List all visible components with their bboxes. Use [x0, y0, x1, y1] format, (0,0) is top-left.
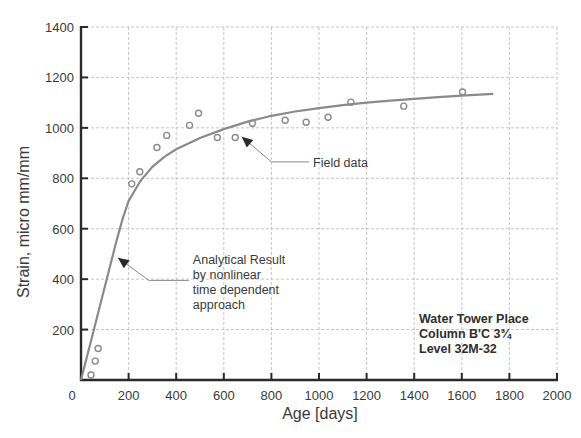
- x-tick-label: 0: [68, 388, 75, 403]
- x-tick-label: 1600: [447, 388, 476, 403]
- info-box: Water Tower Place Column B'C 3¾ Level 32…: [419, 312, 529, 356]
- annotation-field-line: Field data: [313, 156, 368, 170]
- field-data-point: [196, 110, 202, 116]
- y-tick-label: 200: [52, 323, 74, 338]
- y-axis-title: Strain, micro mm/mm: [15, 146, 32, 298]
- y-tick-label: 1400: [45, 20, 74, 35]
- arrowhead-icon: [242, 137, 254, 148]
- field-data-point: [325, 114, 331, 120]
- field-data-point: [187, 122, 193, 128]
- x-tick-label: 1200: [352, 388, 381, 403]
- arrowhead-icon: [118, 258, 130, 269]
- field-data-points: [88, 89, 466, 378]
- field-data-point: [88, 372, 94, 378]
- x-tick-label: 400: [165, 388, 187, 403]
- x-tick-label: 2000: [543, 388, 572, 403]
- annotation-analytical-line: by nonlinear: [193, 268, 261, 282]
- x-tick-label: 200: [118, 388, 140, 403]
- y-tick-label: 800: [52, 171, 74, 186]
- field-data-point: [95, 345, 101, 351]
- field-data-point: [282, 117, 288, 123]
- y-tick-label: 600: [52, 222, 74, 237]
- annotation-analytical-line: Analytical Result: [193, 253, 286, 267]
- annotation-analytical-line: approach: [193, 298, 245, 312]
- x-tick-label: 1000: [305, 388, 334, 403]
- field-data-point: [232, 134, 238, 140]
- field-data-point: [303, 119, 309, 125]
- x-tick-label: 600: [213, 388, 235, 403]
- annotation-analytical-line: time dependent: [193, 283, 280, 297]
- y-tick-label: 1000: [45, 121, 74, 136]
- info-line-2: Column B'C 3¾: [419, 327, 512, 341]
- x-axis-title: Age [days]: [282, 405, 358, 422]
- field-data-point: [164, 132, 170, 138]
- field-data-point: [154, 145, 160, 151]
- field-data-point: [137, 169, 143, 175]
- x-tick-label: 1800: [495, 388, 524, 403]
- strain-vs-age-chart: 0200400600800100012001400160018002000200…: [0, 0, 581, 438]
- field-data-point: [129, 181, 135, 187]
- field-data-point: [460, 89, 466, 95]
- y-tick-label: 400: [52, 272, 74, 287]
- field-data-point: [92, 358, 98, 364]
- field-data-point: [401, 103, 407, 109]
- info-line-3: Level 32M-32: [419, 342, 497, 356]
- info-line-1: Water Tower Place: [419, 312, 529, 326]
- field-data-point: [214, 134, 220, 140]
- x-tick-label: 800: [261, 388, 283, 403]
- x-tick-label: 1400: [400, 388, 429, 403]
- y-tick-label: 1200: [45, 70, 74, 85]
